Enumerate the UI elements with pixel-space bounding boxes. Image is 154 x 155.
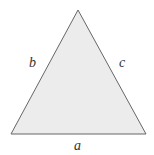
triangle-diagram: b c a [0, 0, 154, 155]
side-label-c: c [119, 55, 126, 70]
triangle-figure: b c a [0, 0, 154, 155]
side-label-b: b [29, 55, 36, 70]
triangle-shape [11, 10, 146, 134]
side-label-a: a [74, 138, 81, 153]
